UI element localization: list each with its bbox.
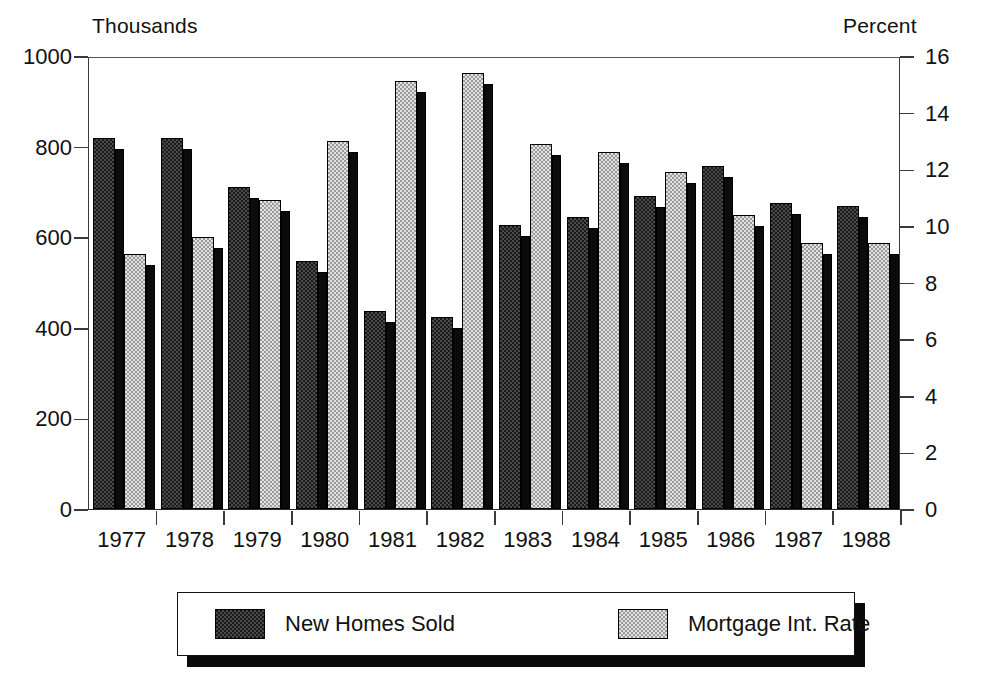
- x-axis-tick-mark: [426, 511, 428, 525]
- bar-face: [567, 217, 589, 509]
- bar-mortgage-int-rate: [327, 141, 349, 509]
- bar-face: [296, 261, 318, 509]
- right-axis-tick-mark: [900, 453, 914, 455]
- x-axis-label-1986: 1986: [706, 527, 755, 553]
- right-axis-tick-label: 14: [925, 101, 949, 127]
- legend: New Homes Sold Mortgage Int. Rate: [177, 592, 855, 656]
- light-checker-swatch-icon: [618, 609, 668, 639]
- bar-mortgage-int-rate: [530, 144, 552, 509]
- right-axis-caption: Percent: [843, 14, 917, 38]
- x-axis-tick-mark: [223, 511, 225, 525]
- bar-mortgage-int-rate: [124, 254, 146, 509]
- bar-face: [868, 243, 890, 509]
- x-axis-label-1987: 1987: [774, 527, 823, 553]
- x-axis-label-1983: 1983: [503, 527, 552, 553]
- bar-new-homes-sold: [702, 166, 724, 509]
- right-axis-tick-mark: [900, 170, 914, 172]
- bar-mortgage-int-rate: [598, 152, 620, 509]
- right-axis: 0246810121416: [925, 0, 985, 696]
- bar-mortgage-int-rate: [733, 215, 755, 509]
- left-axis-caption: Thousands: [92, 14, 198, 38]
- legend-label: Mortgage Int. Rate: [688, 611, 870, 637]
- x-axis-tick-mark: [156, 511, 158, 525]
- left-axis-tick-mark: [74, 509, 88, 511]
- legend-label: New Homes Sold: [285, 611, 455, 637]
- bar-shadow: [250, 198, 259, 509]
- x-axis-tick-mark: [359, 511, 361, 525]
- bar-face: [192, 237, 214, 509]
- x-axis-tick-mark: [900, 511, 902, 525]
- bar-chart: Thousands Percent 02004006008001000 0246…: [0, 0, 988, 696]
- left-axis-tick-mark: [74, 56, 88, 58]
- bar-new-homes-sold: [837, 206, 859, 509]
- bar-mortgage-int-rate: [462, 73, 484, 509]
- x-axis-label-1977: 1977: [97, 527, 146, 553]
- bar-new-homes-sold: [161, 138, 183, 509]
- bar-new-homes-sold: [567, 217, 589, 509]
- left-axis: 02004006008001000: [0, 0, 72, 696]
- right-axis-tick-mark: [900, 113, 914, 115]
- bar-face: [770, 203, 792, 509]
- bar-face: [462, 73, 484, 509]
- bar-shadow: [687, 183, 696, 509]
- x-axis-label-1980: 1980: [300, 527, 349, 553]
- bar-face: [228, 187, 250, 509]
- bar-new-homes-sold: [364, 311, 386, 509]
- right-axis-tick-mark: [900, 226, 914, 228]
- left-axis-tick-label: 800: [35, 135, 72, 161]
- bar-face: [499, 225, 521, 509]
- bar-shadow: [589, 228, 598, 509]
- bar-shadow: [656, 207, 665, 509]
- x-axis-tick-mark: [697, 511, 699, 525]
- right-axis-tick-label: 10: [925, 214, 949, 240]
- plot-area: [88, 57, 900, 510]
- bar-face: [93, 138, 115, 509]
- bar-face: [431, 317, 453, 509]
- bar-shadow: [386, 322, 395, 509]
- x-axis-label-1981: 1981: [368, 527, 417, 553]
- right-axis-tick-label: 4: [925, 384, 937, 410]
- left-axis-tick-label: 400: [35, 316, 72, 342]
- bar-face: [530, 144, 552, 509]
- right-axis-tick-label: 16: [925, 44, 949, 70]
- right-axis-tick-label: 6: [925, 327, 937, 353]
- bar-shadow: [890, 254, 899, 509]
- right-axis-tick-mark: [900, 339, 914, 341]
- bar-mortgage-int-rate: [259, 200, 281, 509]
- left-axis-tick-label: 0: [60, 497, 72, 523]
- bar-face: [395, 81, 417, 509]
- bar-face: [364, 311, 386, 509]
- bar-face: [665, 172, 687, 509]
- x-axis-tick-mark: [832, 511, 834, 525]
- legend-item-new-homes-sold: New Homes Sold: [215, 609, 455, 639]
- bar-shadow: [214, 248, 223, 509]
- bar-shadow: [724, 177, 733, 509]
- bar-mortgage-int-rate: [665, 172, 687, 509]
- bar-face: [259, 200, 281, 509]
- bar-shadow: [484, 84, 493, 509]
- bar-new-homes-sold: [499, 225, 521, 509]
- bar-new-homes-sold: [228, 187, 250, 509]
- x-axis-label-1988: 1988: [842, 527, 891, 553]
- x-axis-label-1979: 1979: [233, 527, 282, 553]
- bar-mortgage-int-rate: [801, 243, 823, 509]
- x-axis-label-1982: 1982: [436, 527, 485, 553]
- right-axis-tick-mark: [900, 56, 914, 58]
- legend-item-mortgage-int-rate: Mortgage Int. Rate: [618, 609, 870, 639]
- bar-face: [598, 152, 620, 509]
- left-axis-tick-mark: [74, 419, 88, 421]
- bar-face: [634, 196, 656, 509]
- left-axis-tick-mark: [74, 237, 88, 239]
- bar-face: [124, 254, 146, 509]
- bar-face: [837, 206, 859, 509]
- bar-shadow: [823, 254, 832, 509]
- x-axis-tick-mark: [562, 511, 564, 525]
- x-axis-label-1978: 1978: [165, 527, 214, 553]
- bar-shadow: [552, 155, 561, 509]
- left-axis-tick-mark: [74, 147, 88, 149]
- x-axis-tick-mark: [494, 511, 496, 525]
- bar-new-homes-sold: [431, 317, 453, 509]
- x-axis-tick-mark: [629, 511, 631, 525]
- x-axis-tick-mark: [765, 511, 767, 525]
- bar-mortgage-int-rate: [395, 81, 417, 509]
